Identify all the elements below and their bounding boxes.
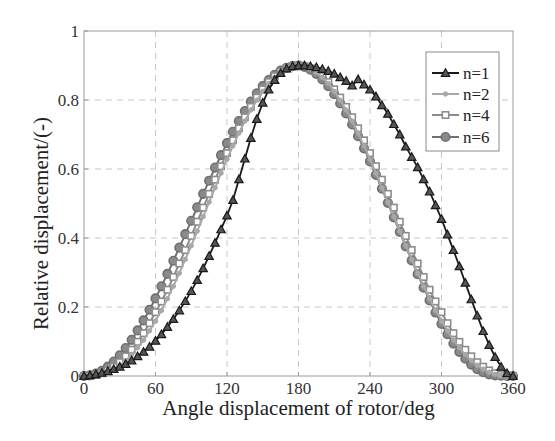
data-point <box>374 171 378 175</box>
data-point <box>481 367 485 371</box>
data-point <box>398 229 402 233</box>
y-axis-title: Relative displacement/(-) <box>29 117 53 330</box>
data-point <box>207 200 211 204</box>
y-tick-label: 1 <box>71 22 80 41</box>
data-point <box>326 81 330 85</box>
data-point <box>350 119 354 123</box>
y-tick-label: 0 <box>71 367 80 386</box>
data-point <box>225 157 229 161</box>
data-point <box>195 229 199 233</box>
y-tick-label: 0.2 <box>58 298 79 317</box>
data-point <box>469 358 473 362</box>
legend-marker <box>443 92 447 96</box>
data-point <box>356 131 360 135</box>
data-point <box>152 309 158 315</box>
data-point <box>255 98 259 102</box>
data-point <box>147 329 151 333</box>
data-point <box>153 319 157 323</box>
legend: n=1n=2n=4n=6 <box>426 52 499 151</box>
y-tick-label: 0.8 <box>58 91 79 110</box>
y-tick-label: 0.4 <box>58 229 80 248</box>
data-point <box>189 243 193 247</box>
data-point <box>439 319 443 323</box>
line-chart: 060120180240300360 00.20.40.60.81 Angle … <box>0 0 555 441</box>
data-point <box>177 271 181 275</box>
data-point <box>438 309 444 315</box>
data-point <box>338 98 342 102</box>
legend-label: n=1 <box>463 64 490 83</box>
data-point <box>493 372 497 376</box>
data-point <box>243 119 247 123</box>
data-point <box>427 297 431 301</box>
data-point <box>457 346 461 350</box>
data-point <box>421 284 425 288</box>
y-tick-label: 0.6 <box>58 160 79 179</box>
data-point <box>332 89 336 93</box>
legend-marker <box>441 133 450 142</box>
x-axis-title: Angle displacement of rotor/deg <box>162 396 435 420</box>
data-point <box>183 257 187 261</box>
data-point <box>392 214 396 218</box>
data-point <box>171 284 175 288</box>
legend-label: n=6 <box>463 128 490 147</box>
data-point <box>475 363 479 367</box>
data-point <box>415 271 419 275</box>
data-point <box>141 338 145 342</box>
data-point <box>487 370 491 374</box>
data-point <box>237 131 241 135</box>
data-point <box>219 171 223 175</box>
data-point <box>249 108 253 112</box>
data-point <box>344 108 348 112</box>
data-point <box>451 338 455 342</box>
data-point <box>432 298 438 304</box>
data-point <box>201 214 205 218</box>
legend-label: n=2 <box>463 85 490 104</box>
data-point <box>445 329 449 333</box>
data-point <box>213 185 217 189</box>
data-point <box>404 243 408 247</box>
data-point <box>158 298 164 304</box>
legend-marker <box>442 112 448 118</box>
data-point <box>159 308 163 312</box>
data-point <box>231 144 235 148</box>
data-point <box>386 200 390 204</box>
data-point <box>433 308 437 312</box>
data-point <box>463 352 467 356</box>
data-point <box>380 185 384 189</box>
data-point <box>165 297 169 301</box>
legend-label: n=4 <box>463 106 490 125</box>
data-point <box>135 346 139 350</box>
data-point <box>368 157 372 161</box>
data-point <box>410 257 414 261</box>
x-tick-label: 0 <box>80 379 89 398</box>
data-point <box>362 144 366 148</box>
data-point <box>320 75 324 79</box>
x-tick-label: 360 <box>500 379 526 398</box>
